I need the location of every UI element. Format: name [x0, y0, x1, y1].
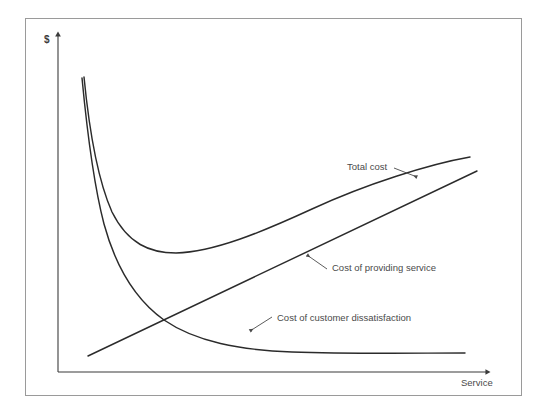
leader-line-cost-of-customer-dissatisfaction [250, 317, 272, 331]
x-axis-title: Service [461, 377, 493, 388]
y-axis-title: $ [44, 34, 50, 45]
figure-page: $ Service Total cost Cost of providing s… [0, 0, 542, 420]
annotation-label-total-cost: Total cost [347, 161, 387, 172]
curve-total-cost [84, 77, 470, 253]
service-cost-tradeoff-chart: $ Service Total cost Cost of providing s… [0, 0, 542, 420]
annotation-label-cost-of-providing-service: Cost of providing service [332, 262, 436, 273]
leader-line-cost-of-providing-service [307, 255, 327, 269]
annotation-label-cost-of-customer-dissatisfaction: Cost of customer dissatisfaction [277, 312, 411, 323]
